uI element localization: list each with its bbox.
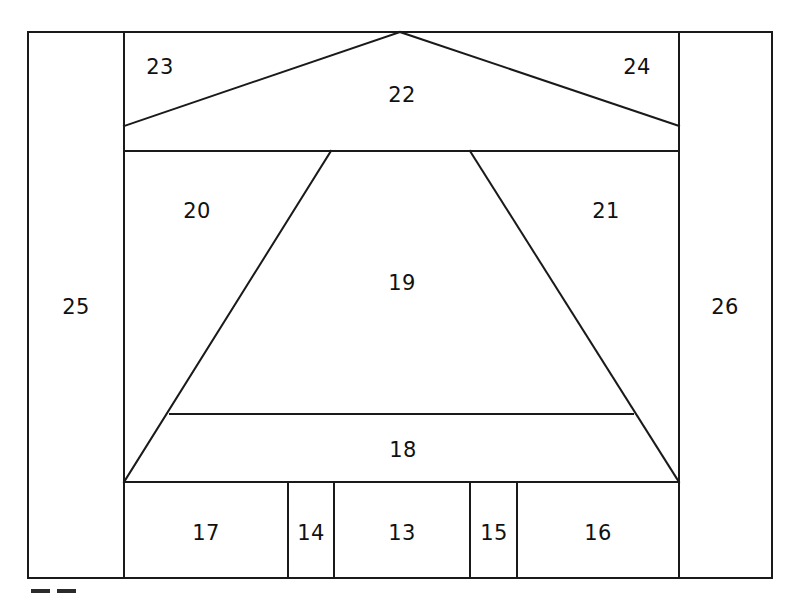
callout-26: 26 <box>711 295 739 319</box>
corner-mark-dash-right <box>57 589 76 593</box>
callout-16: 16 <box>584 521 612 545</box>
callout-22: 22 <box>388 83 416 107</box>
callout-20: 20 <box>183 199 211 223</box>
callout-24: 24 <box>623 55 651 79</box>
figure-canvas: 1314151617181920212223242526 <box>0 0 797 606</box>
corner-mark-dash-left <box>31 589 50 593</box>
callout-18: 18 <box>389 438 417 462</box>
callout-21: 21 <box>592 199 620 223</box>
callout-15: 15 <box>480 521 508 545</box>
callout-17: 17 <box>192 521 220 545</box>
callout-23: 23 <box>146 55 174 79</box>
technical-diagram: 1314151617181920212223242526 <box>0 0 797 606</box>
callout-19: 19 <box>388 271 416 295</box>
callout-13: 13 <box>388 521 416 545</box>
callout-14: 14 <box>297 521 325 545</box>
callout-25: 25 <box>62 295 90 319</box>
